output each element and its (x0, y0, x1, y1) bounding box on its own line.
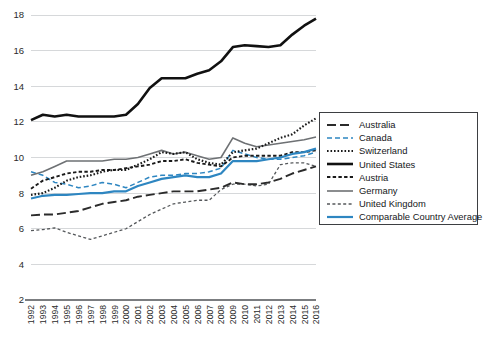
x-axis-tick-label: 2010 (240, 305, 250, 324)
chart-page: 2468101214161819921993199419951996199719… (0, 0, 486, 343)
x-axis-tick-label: 2009 (228, 305, 238, 324)
legend-item-label: United Kingdom (359, 198, 426, 209)
x-axis-tick-label: 2014 (288, 305, 298, 324)
legend-swatch-solid-icon (326, 211, 354, 223)
x-axis-tick-label: 2004 (169, 305, 179, 324)
x-axis-tick-label: 2005 (181, 305, 191, 324)
legend-item-united-states[interactable]: United States (320, 158, 477, 171)
series-line-austria (31, 150, 316, 188)
legend-item-australia[interactable]: Australia (320, 118, 477, 131)
legend-item-germany[interactable]: Germany (320, 184, 477, 197)
chart-legend: AustraliaCanadaSwitzerlandUnited StatesA… (319, 112, 478, 225)
x-axis-tick-label: 2006 (193, 305, 203, 324)
legend-swatch-dotted-icon (326, 145, 354, 157)
legend-swatch-long-dash-icon (326, 119, 354, 131)
x-axis-tick-label: 1994 (50, 305, 60, 324)
x-axis-tick-label: 1995 (62, 305, 72, 324)
legend-item-united-kingdom[interactable]: United Kingdom (320, 197, 477, 210)
x-axis-tick-label: 2015 (300, 305, 310, 324)
x-axis-tick-label: 1993 (38, 305, 48, 324)
line-chart: 2468101214161819921993199419951996199719… (0, 0, 320, 343)
legend-item-austria[interactable]: Austria (320, 171, 477, 184)
legend-swatch-short-dash-icon (326, 171, 354, 183)
plot-area: 2468101214161819921993199419951996199719… (0, 0, 320, 343)
legend-swatch-fine-dash-icon (326, 198, 354, 210)
legend-item-label: United States (359, 159, 415, 170)
y-axis-tick-label: 2 (19, 294, 24, 305)
legend-swatch-dash-icon (326, 132, 354, 144)
legend-item-label: Germany (359, 185, 398, 196)
y-axis-tick-label: 14 (13, 81, 24, 92)
y-axis-tick-label: 6 (19, 223, 24, 234)
x-axis-tick-label: 2008 (216, 305, 226, 324)
x-axis-tick-label: 2001 (133, 305, 143, 324)
y-axis-tick-label: 16 (13, 45, 24, 56)
legend-item-label: Australia (359, 119, 395, 130)
series-line-united-kingdom (31, 163, 316, 240)
x-axis-tick-label: 1998 (98, 305, 108, 324)
legend-item-label: Austria (359, 172, 388, 183)
legend-item-comparable-country-average[interactable]: Comparable Country Average (320, 210, 477, 223)
x-axis-tick-label: 2000 (121, 305, 131, 324)
y-axis-tick-label: 8 (19, 188, 24, 199)
x-axis-tick-label: 2012 (264, 305, 274, 324)
legend-item-label: Comparable Country Average (359, 211, 482, 222)
x-axis-tick-label: 2002 (145, 305, 155, 324)
legend-item-canada[interactable]: Canada (320, 131, 477, 144)
series-line-united-states (31, 19, 316, 121)
y-axis-tick-label: 18 (13, 9, 24, 20)
x-axis-tick-label: 1992 (26, 305, 36, 324)
y-axis-tick-label: 10 (13, 152, 24, 163)
legend-swatch-solid-icon (326, 185, 354, 197)
x-axis-tick-label: 1997 (86, 305, 96, 324)
legend-item-switzerland[interactable]: Switzerland (320, 144, 477, 157)
x-axis-tick-label: 2013 (276, 305, 286, 324)
legend-item-label: Canada (359, 132, 392, 143)
x-axis-tick-label: 1996 (74, 305, 84, 324)
legend-swatch-solid-icon (326, 158, 354, 170)
series-line-australia (31, 166, 316, 215)
x-axis-tick-label: 1999 (110, 305, 120, 324)
x-axis-tick-label: 2007 (205, 305, 215, 324)
x-axis-tick-label: 2016 (311, 305, 320, 324)
x-axis-tick-label: 2011 (252, 305, 262, 324)
y-axis-tick-label: 4 (19, 259, 24, 270)
x-axis-tick-label: 2003 (157, 305, 167, 324)
y-axis-tick-label: 12 (13, 116, 24, 127)
legend-item-label: Switzerland (359, 145, 407, 156)
